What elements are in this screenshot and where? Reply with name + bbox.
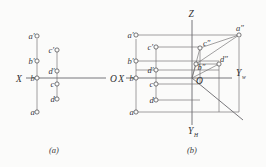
panel-b-label-d-dprime: d″ xyxy=(220,54,228,64)
panel-a-point-d xyxy=(55,97,59,101)
panel-a-point-c xyxy=(55,82,59,86)
panel-b-point-d-prime xyxy=(154,68,158,72)
panel-b-label-c-dprime: c″ xyxy=(203,38,211,48)
panel-a-point-d-prime xyxy=(55,69,59,73)
panel-b-point-a-prime xyxy=(134,33,138,37)
panel-a-label-a: a xyxy=(31,107,35,117)
panel-b-axis-label-yw-sub: w xyxy=(242,74,246,80)
projection-diagram: a′ b′ b a c′ d′ c d X O (a) xyxy=(0,0,266,167)
panel-b-point-c-prime xyxy=(154,45,158,49)
panel-a-axis-label-o: O xyxy=(110,74,117,84)
panel-a-axis-label-x: X xyxy=(15,74,23,84)
panel-b-point-c-dprime xyxy=(198,46,202,50)
panel-b-label-c-prime: c′ xyxy=(148,42,154,52)
panel-b-label-b: b xyxy=(130,73,134,83)
panel-a-label-c-prime: c′ xyxy=(49,45,55,55)
panel-b-point-a-dprime xyxy=(237,33,241,37)
panel-a-point-a xyxy=(35,110,39,114)
panel-a-caption: (a) xyxy=(49,145,59,155)
panel-a-label-d-prime: d′ xyxy=(49,66,55,76)
panel-b-label-a-prime: a′ xyxy=(128,30,134,40)
panel-b-label-c: c xyxy=(150,79,154,89)
panel-b-group: a′ b′ b a c′ d′ c d a″ c″ b″ d″ O X Z Y … xyxy=(117,9,246,155)
panel-b-axis-label-yh-group: Y H xyxy=(188,126,199,138)
panel-b-origin-label: O xyxy=(196,76,203,86)
panel-a-group: a′ b′ b a c′ d′ c d X O (a) xyxy=(15,31,117,156)
panel-a-label-b: b xyxy=(31,73,35,83)
panel-b-point-b-prime xyxy=(134,59,138,63)
panel-b-axis-label-z: Z xyxy=(189,9,195,19)
panel-b-point-b xyxy=(134,76,138,80)
panel-a-point-b xyxy=(35,76,39,80)
panel-b-label-a-dprime: a″ xyxy=(236,23,244,33)
figure-canvas: a′ b′ b a c′ d′ c d X O (a) xyxy=(0,0,266,167)
panel-b-label-d-prime: d′ xyxy=(148,65,154,75)
panel-b-axis-label-yw-group: Y w xyxy=(236,68,246,80)
panel-b-label-a: a xyxy=(130,107,134,117)
panel-b-point-c xyxy=(154,82,158,86)
panel-b-axis-label-x: X xyxy=(117,74,125,84)
panel-b-caption: (b) xyxy=(187,145,197,155)
panel-a-point-b-prime xyxy=(35,59,39,63)
panel-a-label-c: c xyxy=(51,79,55,89)
panel-a-label-a-prime: a′ xyxy=(29,31,35,41)
panel-a-label-b-prime: b′ xyxy=(29,56,35,66)
panel-a-point-c-prime xyxy=(55,48,59,52)
panel-b-point-d xyxy=(154,98,158,102)
panel-b-label-b-dprime: b″ xyxy=(198,62,206,72)
panel-b-point-a xyxy=(134,110,138,114)
panel-a-point-a-prime xyxy=(35,34,39,38)
panel-b-axis-label-yh-sub: H xyxy=(193,132,199,138)
panel-b-label-b-prime: b′ xyxy=(128,56,134,66)
